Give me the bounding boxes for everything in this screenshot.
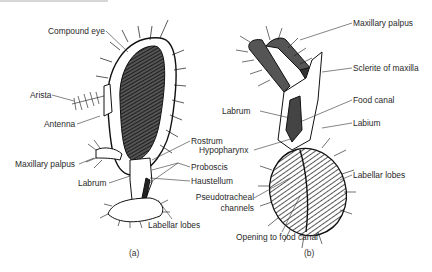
caption-b: (b)	[304, 248, 314, 258]
label-labrum-a: Labrum	[78, 178, 106, 188]
label-labrum-b: Labrum	[222, 106, 250, 116]
label-proboscis: Proboscis	[191, 162, 228, 172]
label-arista: Arista	[30, 90, 51, 100]
panel-a-drawing	[72, 20, 186, 228]
panel-b-drawing	[236, 26, 356, 248]
caption-a: (a)	[129, 248, 139, 258]
label-opening-to-food-canal: Opening to food canal	[236, 232, 318, 242]
label-food-canal: Food canal	[353, 95, 394, 105]
label-maxillary-palpus-b: Maxillary palpus	[353, 18, 413, 28]
label-maxillary-palpus-a: Maxillary palpus	[15, 159, 75, 169]
label-hypopharynx: Hypopharynx	[199, 145, 248, 155]
label-antenna: Antenna	[44, 119, 75, 129]
label-labellar-lobes-a: Labellar lobes	[148, 220, 200, 230]
label-labium: Labium	[353, 118, 380, 128]
label-labellar-lobes-b: Labellar lobes	[353, 170, 405, 180]
label-pseudotracheal-2: channels	[194, 203, 254, 213]
label-pseudotracheal-1: Pseudotracheal	[194, 192, 254, 202]
label-compound-eye: Compound eye	[48, 26, 105, 36]
label-haustellum: Haustellum	[191, 176, 233, 186]
label-sclerite-of-maxilla: Sclerite of maxilla	[353, 63, 419, 73]
